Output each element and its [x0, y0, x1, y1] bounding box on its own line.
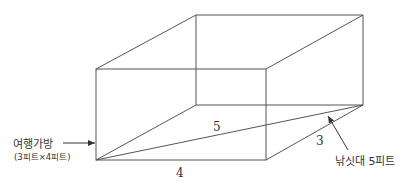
bag-dimensions-label: (3피트×4피트) [14, 150, 71, 162]
rod-arrow-icon [328, 116, 348, 150]
suitcase-fishing-rod-diagram: 5 3 4 여행가방 (3피트×4피트) 낚싯대 5피트 [0, 0, 403, 185]
width-length-label: 4 [176, 166, 184, 180]
diagonal-length-label: 5 [213, 120, 221, 134]
bag-title-label: 여행가방 [13, 135, 53, 151]
diagonal-rod-line [96, 105, 363, 160]
depth-length-label: 3 [316, 134, 324, 148]
top-left-connector [96, 15, 196, 69]
top-right-connector [266, 15, 363, 69]
bottom-left-connector [96, 105, 196, 160]
rod-label: 낚싯대 5피트 [335, 152, 396, 168]
